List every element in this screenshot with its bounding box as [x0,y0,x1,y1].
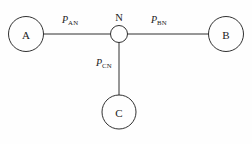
edge-label-n-b: PBN [151,15,167,26]
edge-label-n-c-subscript: CN [102,62,112,69]
network-diagram: A B C N PAN PBN PCN [0,0,252,144]
node-n-label: N [115,12,123,23]
node-b-label: B [222,29,229,41]
edge-label-n-b-subscript: BN [157,19,167,26]
node-a-label: A [22,29,30,41]
node-c-label: C [115,107,122,119]
edge-label-n-c: PCN [96,58,112,69]
node-n-circle [111,26,128,43]
edge-label-a-n-subscript: AN [68,19,78,26]
diagram-svg: A B C N [0,0,252,144]
edge-label-a-n: PAN [62,15,78,26]
